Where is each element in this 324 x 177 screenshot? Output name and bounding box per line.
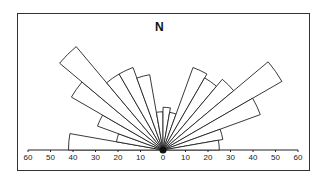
axis-tick-label: 60	[24, 153, 33, 162]
axis-tick-label: 10	[181, 153, 190, 162]
axis-tick-label: 40	[249, 153, 258, 162]
axis-tick-label: 30	[226, 153, 235, 162]
axis-tick-label: 20	[114, 153, 123, 162]
axis-tick-label: 40	[69, 153, 78, 162]
north-label: N	[155, 20, 164, 34]
axis-tick-label: 50	[46, 153, 55, 162]
axis-tick-label: 0	[161, 153, 165, 162]
axis-tick-label: 10	[136, 153, 145, 162]
axis-tick-label: 60	[294, 153, 303, 162]
axis-tick-label: 30	[91, 153, 100, 162]
axis-tick-label: 50	[271, 153, 280, 162]
axis-tick-label: 20	[204, 153, 213, 162]
